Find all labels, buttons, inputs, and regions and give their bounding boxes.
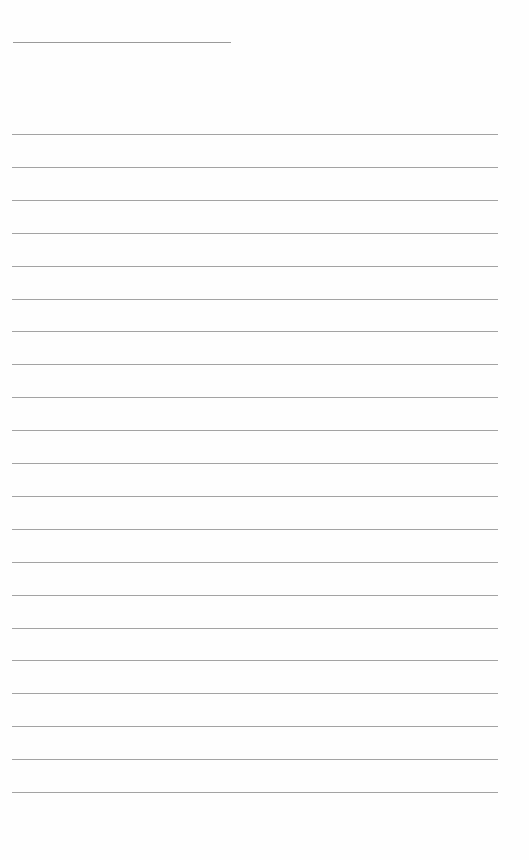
ruled-line [12, 331, 498, 332]
ruled-line [12, 496, 498, 497]
lined-page [0, 0, 529, 860]
ruled-line [12, 299, 498, 300]
ruled-line [12, 562, 498, 563]
ruled-line [12, 529, 498, 530]
ruled-line [12, 660, 498, 661]
ruled-line [12, 134, 498, 135]
ruled-line [12, 167, 498, 168]
ruled-line [12, 726, 498, 727]
ruled-line [12, 364, 498, 365]
ruled-line [12, 430, 498, 431]
header-line [13, 42, 231, 43]
ruled-line [12, 397, 498, 398]
ruled-line [12, 595, 498, 596]
ruled-line [12, 233, 498, 234]
ruled-line [12, 200, 498, 201]
ruled-line [12, 693, 498, 694]
ruled-line [12, 463, 498, 464]
ruled-line [12, 628, 498, 629]
ruled-line [12, 266, 498, 267]
ruled-line [12, 792, 498, 793]
ruled-line [12, 759, 498, 760]
